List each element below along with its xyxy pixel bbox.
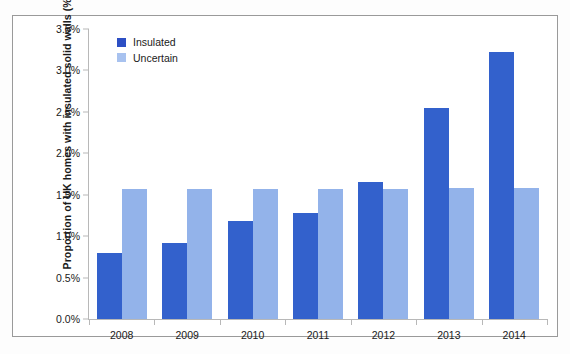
bar-uncertain-2011[interactable] bbox=[318, 189, 343, 319]
x-axis-tick-mark bbox=[351, 319, 352, 325]
bar-group-2014: 2014 bbox=[482, 29, 547, 319]
bar-group-2010: 2010 bbox=[220, 29, 285, 319]
bar-group-2008: 2008 bbox=[89, 29, 154, 319]
x-axis-tick-mark bbox=[285, 319, 286, 325]
x-axis-tick-label-2013: 2013 bbox=[416, 329, 481, 341]
bar-group-bars bbox=[154, 29, 219, 319]
chart-frame: Proportion of UK homes with insulated so… bbox=[12, 15, 558, 337]
x-axis-tick-mark bbox=[89, 319, 90, 325]
bar-groups: 2008200920102011201220132014 bbox=[89, 29, 547, 319]
bar-insulated-2008[interactable] bbox=[97, 253, 122, 319]
bar-uncertain-2013[interactable] bbox=[449, 188, 474, 319]
x-axis-tick-label-2012: 2012 bbox=[351, 329, 416, 341]
bar-uncertain-2014[interactable] bbox=[514, 188, 539, 319]
x-axis-tick-label-2011: 2011 bbox=[285, 329, 350, 341]
bar-group-bars bbox=[416, 29, 481, 319]
bar-group-2013: 2013 bbox=[416, 29, 481, 319]
x-axis-line bbox=[88, 319, 548, 320]
bar-insulated-2013[interactable] bbox=[424, 108, 449, 319]
bar-group-2011: 2011 bbox=[285, 29, 350, 319]
bar-uncertain-2008[interactable] bbox=[122, 189, 147, 319]
bar-uncertain-2012[interactable] bbox=[383, 189, 408, 319]
bar-group-2012: 2012 bbox=[351, 29, 416, 319]
x-axis-tick-label-2008: 2008 bbox=[89, 329, 154, 341]
x-axis-tick-mark bbox=[220, 319, 221, 325]
x-axis-tick-mark bbox=[547, 319, 548, 325]
bar-insulated-2012[interactable] bbox=[358, 182, 383, 319]
bar-group-bars bbox=[220, 29, 285, 319]
bar-insulated-2009[interactable] bbox=[162, 243, 187, 319]
bar-insulated-2010[interactable] bbox=[228, 221, 253, 319]
bar-group-bars bbox=[482, 29, 547, 319]
x-axis-tick-mark bbox=[154, 319, 155, 325]
bar-group-bars bbox=[285, 29, 350, 319]
plot-area: 0.0%0.5%1.0%1.5%2.0%2.5%3.0%3.5% 2008200… bbox=[89, 29, 547, 319]
bar-insulated-2011[interactable] bbox=[293, 213, 318, 319]
bar-group-bars bbox=[89, 29, 154, 319]
bar-group-bars bbox=[351, 29, 416, 319]
x-axis-tick-mark bbox=[482, 319, 483, 325]
bar-uncertain-2009[interactable] bbox=[187, 189, 212, 319]
x-axis-tick-label-2010: 2010 bbox=[220, 329, 285, 341]
x-axis-tick-mark bbox=[416, 319, 417, 325]
scanned-page: Proportion of UK homes with insulated so… bbox=[0, 0, 570, 354]
bar-group-2009: 2009 bbox=[154, 29, 219, 319]
x-axis-tick-label-2014: 2014 bbox=[482, 329, 547, 341]
bar-uncertain-2010[interactable] bbox=[253, 189, 278, 319]
bar-insulated-2014[interactable] bbox=[489, 52, 514, 319]
x-axis-tick-label-2009: 2009 bbox=[154, 329, 219, 341]
